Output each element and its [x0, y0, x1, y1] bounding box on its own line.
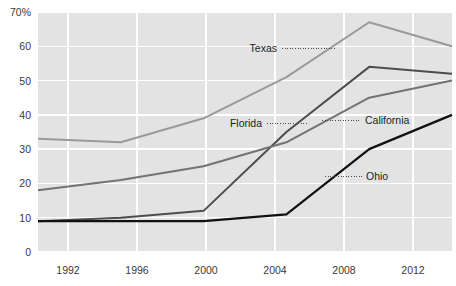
series-label-florida: Florida	[230, 117, 262, 129]
y-tick-label-0: 0	[25, 246, 31, 258]
x-tick-label-1996: 1996	[125, 264, 149, 276]
y-tick-label-70: 70%	[10, 6, 31, 18]
line-chart: 70% 60 50 40 30 20 10 0 1992 1996 2000 2…	[0, 0, 456, 286]
series-label-texas: Texas	[250, 42, 277, 54]
x-tick-label-1992: 1992	[56, 264, 80, 276]
y-axis-tick-labels: 70% 60 50 40 30 20 10 0	[10, 6, 31, 258]
x-tick-label-2000: 2000	[194, 264, 218, 276]
plot-area-background	[38, 12, 452, 252]
x-tick-label-2012: 2012	[401, 264, 425, 276]
y-tick-label-40: 40	[19, 109, 31, 121]
y-tick-label-10: 10	[19, 212, 31, 224]
x-axis-tick-labels: 1992 1996 2000 2004 2008 2012	[56, 264, 425, 276]
y-tick-label-20: 20	[19, 177, 31, 189]
chart-canvas: 70% 60 50 40 30 20 10 0 1992 1996 2000 2…	[0, 0, 456, 286]
x-tick-label-2004: 2004	[263, 264, 287, 276]
y-tick-label-60: 60	[19, 40, 31, 52]
series-label-ohio: Ohio	[366, 170, 388, 182]
x-tick-label-2008: 2008	[332, 264, 356, 276]
series-label-california: California	[365, 114, 410, 126]
y-tick-label-50: 50	[19, 75, 31, 87]
y-tick-label-30: 30	[19, 143, 31, 155]
